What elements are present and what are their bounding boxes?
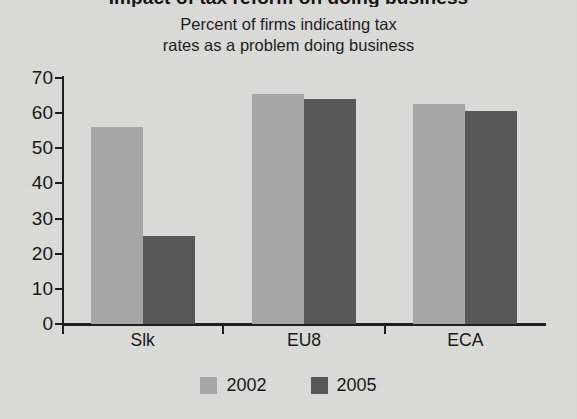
legend-swatch-icon (200, 377, 217, 394)
y-tick-label: 30 (32, 208, 53, 230)
chart-legend: 20022005 (0, 376, 577, 394)
legend-item-2002[interactable]: 2002 (200, 376, 266, 394)
bar-chart-figure: Impact of tax reform on doing business P… (0, 0, 577, 419)
y-tick-mark (55, 77, 62, 79)
y-tick-mark (55, 182, 62, 184)
x-category-label: Slk (62, 330, 223, 351)
y-tick-mark (55, 288, 62, 290)
legend-swatch-icon (311, 377, 328, 394)
plot-area: 010203040506070 SlkEU8ECA (62, 78, 546, 324)
bar-group: Slk (62, 78, 223, 324)
y-tick-label: 0 (42, 313, 53, 335)
x-category-label: ECA (385, 330, 546, 351)
y-tick-label: 50 (32, 137, 53, 159)
y-tick-mark (55, 218, 62, 220)
chart-subtitle-line-1: Percent of firms indicating tax (0, 14, 577, 35)
y-tick-mark (55, 323, 62, 325)
x-category-label: EU8 (223, 330, 384, 351)
legend-item-2005[interactable]: 2005 (311, 376, 377, 394)
y-tick-label: 60 (32, 102, 53, 124)
bar-eca-2002 (413, 104, 465, 324)
bar-group: ECA (385, 78, 546, 324)
bar-slk-2002 (91, 127, 143, 324)
legend-label: 2002 (226, 376, 266, 394)
y-tick-mark (55, 112, 62, 114)
bar-eca-2005 (465, 111, 517, 324)
bar-slk-2005 (143, 236, 195, 324)
y-tick-label: 20 (32, 243, 53, 265)
y-tick-label: 70 (32, 67, 53, 89)
bar-group: EU8 (223, 78, 384, 324)
chart-title: Impact of tax reform on doing business (0, 0, 577, 7)
bar-eu8-2002 (252, 94, 304, 324)
y-tick-label: 40 (32, 172, 53, 194)
legend-label: 2005 (337, 376, 377, 394)
y-tick-mark (55, 253, 62, 255)
chart-subtitle: Percent of firms indicating tax rates as… (0, 14, 577, 56)
y-tick-mark (55, 147, 62, 149)
chart-subtitle-line-2: rates as a problem doing business (0, 35, 577, 56)
bar-eu8-2005 (304, 99, 356, 324)
y-tick-label: 10 (32, 278, 53, 300)
